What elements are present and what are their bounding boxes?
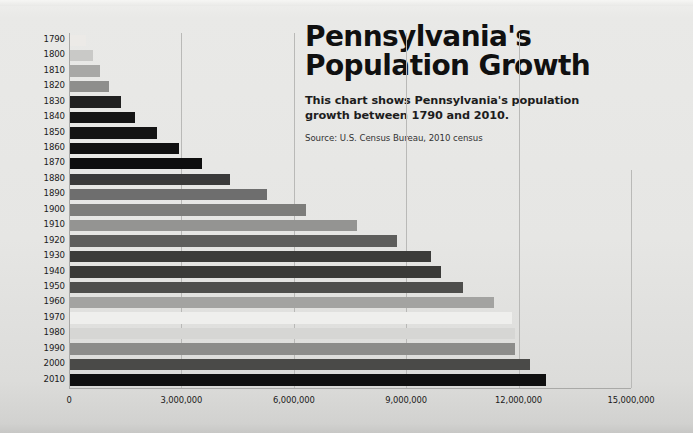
y-axis-label-2010: 2010: [5, 374, 65, 384]
y-axis-label-1820: 1820: [5, 80, 65, 90]
x-tick-label-15000000: 15,000,000: [608, 395, 655, 405]
bar-row: 1830: [69, 95, 631, 110]
bar-1940: [70, 266, 441, 277]
bar-1810: [70, 65, 100, 76]
bar-row: 1820: [69, 79, 631, 94]
y-axis-label-1860: 1860: [5, 142, 65, 152]
bar-1830: [70, 96, 121, 107]
y-axis-label-1850: 1850: [5, 127, 65, 137]
bar-1820: [70, 81, 109, 92]
bar-1920: [70, 235, 397, 246]
bar-row: 1790: [69, 33, 631, 48]
y-axis-label-1800: 1800: [5, 49, 65, 59]
y-axis-label-1890: 1890: [5, 188, 65, 198]
bar-row: 1920: [69, 234, 631, 249]
plot-area: 1790180018101820183018401850186018701880…: [69, 33, 631, 388]
y-axis-label-2000: 2000: [5, 358, 65, 368]
x-tick-label-6000000: 6,000,000: [273, 395, 315, 405]
bar-1860: [70, 143, 179, 154]
bar-row: 2010: [69, 373, 631, 388]
bar-rows: 1790180018101820183018401850186018701880…: [69, 33, 631, 388]
bar-row: 1840: [69, 110, 631, 125]
x-tick-label-9000000: 9,000,000: [385, 395, 427, 405]
bar-row: 1860: [69, 141, 631, 156]
bar-2010: [70, 374, 546, 385]
bar-1990: [70, 343, 515, 354]
bar-1890: [70, 189, 267, 200]
y-axis-label-1960: 1960: [5, 296, 65, 306]
bar-row: 1960: [69, 295, 631, 310]
bar-row: 1950: [69, 280, 631, 295]
bar-row: 1990: [69, 342, 631, 357]
bar-1790: [70, 35, 86, 46]
x-tick-label-12000000: 12,000,000: [495, 395, 542, 405]
bar-row: 1850: [69, 126, 631, 141]
y-axis-label-1880: 1880: [5, 173, 65, 183]
bar-row: 1810: [69, 64, 631, 79]
y-axis-label-1870: 1870: [5, 157, 65, 167]
bar-row: 2000: [69, 357, 631, 372]
y-axis-label-1920: 1920: [5, 235, 65, 245]
bar-row: 1910: [69, 218, 631, 233]
bar-1930: [70, 251, 431, 262]
bar-row: 1940: [69, 265, 631, 280]
bar-1850: [70, 127, 157, 138]
y-axis-label-1790: 1790: [5, 34, 65, 44]
bar-row: 1930: [69, 249, 631, 264]
bar-1870: [70, 158, 202, 169]
y-axis-label-1930: 1930: [5, 250, 65, 260]
chart-page: Pennsylvania's Population Growth This ch…: [0, 0, 693, 433]
bar-1950: [70, 282, 463, 293]
bar-row: 1880: [69, 172, 631, 187]
bar-1980: [70, 328, 515, 339]
x-tick-label-0: 0: [66, 395, 71, 405]
bar-row: 1870: [69, 156, 631, 171]
bar-1880: [70, 174, 230, 185]
bar-row: 1800: [69, 48, 631, 63]
y-axis-label-1970: 1970: [5, 312, 65, 322]
x-axis-line: [69, 388, 631, 389]
bar-1910: [70, 220, 357, 231]
bar-1970: [70, 312, 512, 323]
x-tick-label-3000000: 3,000,000: [161, 395, 203, 405]
bar-1960: [70, 297, 494, 308]
x-axis-ticks: 03,000,0006,000,0009,000,00012,000,00015…: [69, 395, 631, 411]
bar-row: 1890: [69, 187, 631, 202]
gridline-15000000: [631, 170, 632, 388]
bar-1900: [70, 204, 306, 215]
bar-1840: [70, 112, 135, 123]
bar-row: 1900: [69, 203, 631, 218]
y-axis-label-1900: 1900: [5, 204, 65, 214]
bar-row: 1970: [69, 311, 631, 326]
bar-1800: [70, 50, 93, 61]
y-axis-label-1980: 1980: [5, 327, 65, 337]
y-axis-label-1950: 1950: [5, 281, 65, 291]
y-axis-label-1940: 1940: [5, 266, 65, 276]
y-axis-label-1990: 1990: [5, 343, 65, 353]
y-axis-label-1830: 1830: [5, 96, 65, 106]
y-axis-label-1910: 1910: [5, 219, 65, 229]
y-axis-label-1840: 1840: [5, 111, 65, 121]
bar-row: 1980: [69, 326, 631, 341]
y-axis-label-1810: 1810: [5, 65, 65, 75]
bar-2000: [70, 359, 530, 370]
